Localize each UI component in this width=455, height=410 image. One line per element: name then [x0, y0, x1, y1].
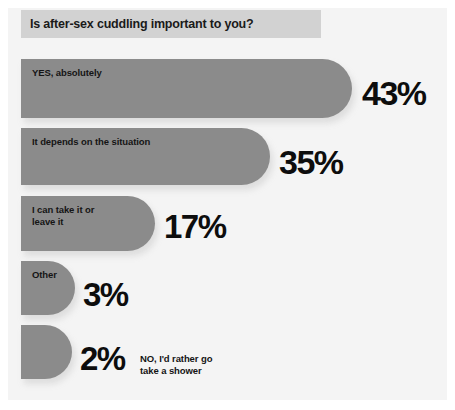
bar-row: I can take it or leave it 17% — [21, 196, 441, 251]
bar-category-label: NO, I'd rather go take a shower — [140, 353, 212, 376]
bar-value-label: 17% — [164, 210, 226, 243]
bar-row: YES, absolutely 43% — [21, 59, 441, 118]
bar-value-label: 2% — [80, 342, 125, 375]
bar-chart: YES, absolutely 43% It depends on the si… — [0, 0, 455, 410]
bar-row: Other 3% — [21, 261, 441, 315]
bar-row: It depends on the situation 35% — [21, 128, 441, 185]
bar-category-label: It depends on the situation — [32, 136, 150, 148]
bar-category-label: Other — [32, 269, 57, 281]
poll-chart-card: Is after-sex cuddling important to you? … — [0, 0, 455, 410]
bar-category-label: I can take it or leave it — [32, 204, 94, 227]
bar-row: 2% NO, I'd rather go take a shower — [21, 325, 441, 379]
bar-value-label: 43% — [362, 76, 426, 110]
bar-value-label: 35% — [279, 145, 343, 179]
bar-value-label: 3% — [83, 278, 128, 311]
bar-category-label: YES, absolutely — [32, 67, 102, 79]
